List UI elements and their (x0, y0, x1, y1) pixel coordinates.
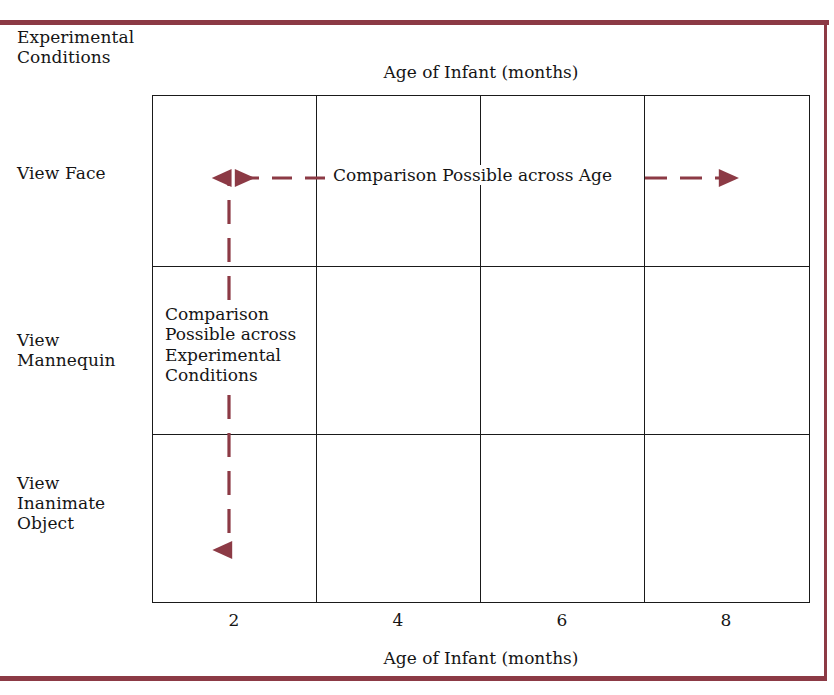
bottom-axis-title: Age of Infant (months) (152, 648, 810, 668)
frame-top-rule (0, 20, 829, 25)
row-label-view-mannequin: View Mannequin (17, 330, 116, 370)
row-label-view-face: View Face (17, 163, 106, 183)
top-axis-title: Age of Infant (months) (152, 62, 810, 82)
frame-right-rule (824, 20, 827, 680)
x-tick-6: 6 (480, 610, 644, 630)
figure-canvas: Experimental Conditions Age of Infant (m… (0, 0, 834, 695)
grid-hline-2 (153, 434, 809, 435)
frame-bottom-rule (0, 676, 827, 681)
annotation-comparison-across-conditions: Comparison Possible across Experimental … (163, 303, 298, 387)
grid-vline-3 (644, 96, 645, 602)
row-label-view-inanimate-object: View Inanimate Object (17, 473, 105, 533)
x-tick-8: 8 (644, 610, 808, 630)
annotation-comparison-across-age: Comparison Possible across Age (330, 165, 615, 185)
x-tick-4: 4 (316, 610, 480, 630)
grid-hline-1 (153, 266, 809, 267)
x-tick-2: 2 (152, 610, 316, 630)
experimental-conditions-heading: Experimental Conditions (17, 27, 134, 67)
grid-vline-1 (316, 96, 317, 602)
